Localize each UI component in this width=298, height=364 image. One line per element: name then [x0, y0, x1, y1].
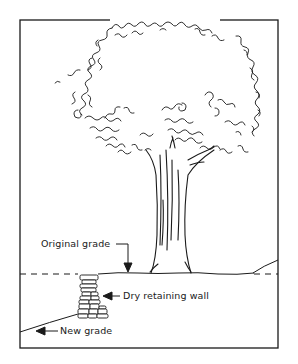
diagram-illustration [0, 0, 298, 364]
tree-trunk [146, 136, 214, 273]
new-grade-arrow [36, 327, 58, 335]
label-new-grade: New grade [60, 326, 112, 336]
ground-line [98, 273, 254, 275]
retaining-wall-arrow [103, 292, 120, 300]
tree-canopy [55, 22, 260, 154]
right-slope [253, 260, 278, 273]
label-dry-retaining-wall: Dry retaining wall [123, 291, 209, 301]
original-grade-arrow [116, 244, 132, 272]
label-original-grade: Original grade [41, 239, 110, 249]
diagram-canvas: Original grade Dry retaining wall New gr… [0, 0, 298, 364]
